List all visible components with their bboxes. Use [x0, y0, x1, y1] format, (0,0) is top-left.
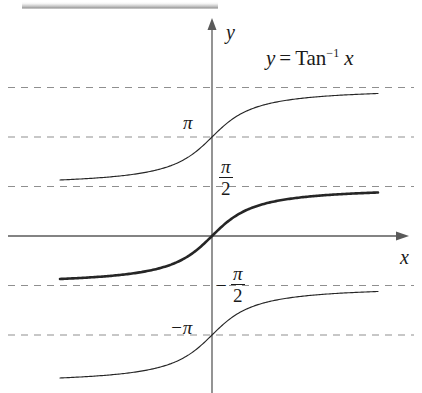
tick-neg-pi-over-2-denominator: 2: [231, 286, 245, 305]
equation-lhs: y: [266, 46, 275, 70]
tick-neg-pi-over-2-numerator: π: [231, 264, 245, 283]
tick-label-neg-pi-over-2-sign: −: [216, 275, 227, 297]
tick-pi-over-2-numerator: π: [219, 157, 233, 176]
equation-label: y=Tan−1x: [266, 47, 353, 69]
arctangent-branches-figure: y x y=Tan−1x π π 2 − π 2 −π: [0, 0, 422, 393]
y-axis-label: y: [226, 22, 235, 42]
tick-label-pi: π: [183, 113, 193, 132]
axis-group: [8, 18, 409, 393]
x-axis-label: x: [400, 247, 409, 267]
tick-label-neg-pi-over-2: π 2: [231, 264, 245, 306]
gridline-group: [8, 88, 414, 336]
equation-exponent: −1: [326, 46, 339, 60]
y-axis-arrowhead: [208, 18, 217, 30]
tick-label-neg-pi: −π: [170, 318, 192, 337]
plot-canvas: [0, 0, 422, 393]
tick-pi-over-2-denominator: 2: [219, 179, 233, 198]
equation-argument: x: [339, 46, 353, 70]
tick-label-pi-over-2: π 2: [219, 157, 233, 199]
equation-equals: =: [275, 46, 295, 70]
x-axis-arrowhead: [396, 232, 409, 241]
equation-function: Tan: [295, 46, 326, 70]
